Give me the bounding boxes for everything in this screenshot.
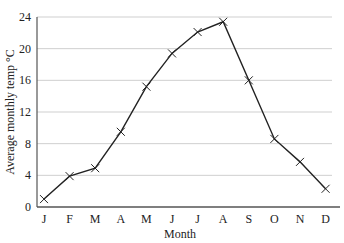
x-marker-icon — [296, 158, 304, 166]
x-marker-icon — [168, 49, 176, 57]
line-chart: 04812162024 JFMAMJJASOND Month Average m… — [0, 0, 344, 243]
x-marker-icon — [142, 83, 150, 91]
x-marker-icon — [219, 18, 227, 26]
x-tick-label: S — [245, 212, 252, 226]
y-tick-label: 0 — [25, 200, 31, 214]
x-marker-icon — [194, 28, 202, 36]
x-tick-label: A — [219, 212, 228, 226]
y-tick-label: 20 — [19, 42, 31, 56]
x-marker-icon — [322, 185, 330, 193]
x-tick-label: O — [270, 212, 279, 226]
x-marker-icon — [117, 128, 125, 136]
x-tick-label: M — [90, 212, 101, 226]
x-marker-icon — [66, 172, 74, 180]
y-tick-label: 8 — [25, 137, 31, 151]
x-tick-label: D — [321, 212, 330, 226]
y-tick-label: 16 — [19, 73, 31, 87]
x-axis-label: Month — [164, 227, 196, 241]
x-tick-label: J — [42, 212, 47, 226]
y-tick-label: 12 — [19, 105, 31, 119]
y-axis-label: Average monthly temp °C — [3, 49, 17, 175]
x-marker-icon — [40, 195, 48, 203]
x-tick-label: A — [116, 212, 125, 226]
x-tick-label: N — [296, 212, 305, 226]
x-tick-label: J — [170, 212, 175, 226]
y-axis-ticks: 04812162024 — [19, 10, 31, 214]
x-marker-icon — [270, 135, 278, 143]
x-tick-label: M — [141, 212, 152, 226]
x-tick-label: F — [66, 212, 73, 226]
x-tick-label: J — [195, 212, 200, 226]
x-axis-ticks: JFMAMJJASOND — [42, 212, 331, 226]
y-tick-label: 24 — [19, 10, 31, 24]
y-tick-label: 4 — [25, 168, 31, 182]
x-marker-icon — [91, 164, 99, 172]
